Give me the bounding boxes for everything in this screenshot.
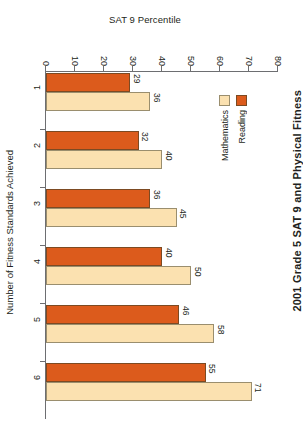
value-axis-tick-label: 40 (157, 56, 166, 66)
value-axis-tick-label: 60 (215, 56, 224, 66)
bar-group: 4658 (46, 305, 278, 343)
value-axis-tick-labels: 01020304050607080 (45, 40, 278, 66)
category-axis-label: 5 (32, 317, 42, 322)
value-axis-tick-label: 50 (186, 56, 195, 66)
bar-value-label: 40 (164, 248, 173, 257)
bar-value-label: 40 (164, 151, 173, 160)
bar-mathematics[interactable] (46, 382, 252, 401)
bar-mathematics[interactable] (46, 266, 191, 285)
bar-mathematics[interactable] (46, 150, 162, 169)
legend: MathematicsReading (219, 95, 275, 215)
bar-value-label: 36 (152, 93, 161, 102)
legend-entry[interactable]: Mathematics (219, 95, 230, 106)
bar-row: 50 (46, 266, 278, 285)
bar-mathematics[interactable] (46, 324, 214, 343)
legend-swatch-icon (219, 95, 230, 106)
category-axis-tick (40, 303, 45, 304)
bar-reading[interactable] (46, 189, 150, 208)
category-axis-title: Number of Fitness Standards Achieved (4, 150, 15, 315)
bar-value-label: 45 (179, 209, 188, 218)
category-axis-label: 3 (32, 201, 42, 206)
bar-mathematics[interactable] (46, 92, 150, 111)
legend-label: Mathematics (220, 110, 230, 161)
bar-mathematics[interactable] (46, 208, 177, 227)
value-axis-tick-label: 20 (99, 56, 108, 66)
bar-value-label: 29 (132, 74, 141, 83)
bar-row: 58 (46, 324, 278, 343)
bar-reading[interactable] (46, 131, 139, 150)
bar-value-label: 50 (193, 267, 202, 276)
bar-reading[interactable] (46, 305, 179, 324)
bar-value-label: 32 (141, 132, 150, 141)
chart-title: 2001 Grade 5 SAT 9 and Physical Fitness (291, 90, 303, 312)
value-axis-tick-label: 30 (128, 56, 137, 66)
category-axis-label: 1 (32, 85, 42, 90)
category-axis-label: 6 (32, 375, 42, 380)
category-axis-tick (40, 187, 45, 188)
bar-group: 4050 (46, 247, 278, 285)
category-axis-label: 2 (32, 143, 42, 148)
bar-value-label: 55 (208, 364, 217, 373)
chart-figure: SAT 9 Percentile 01020304050607080 12345… (0, 0, 307, 439)
bar-row: 40 (46, 247, 278, 266)
bar-reading[interactable] (46, 363, 206, 382)
category-axis-tick (40, 245, 45, 246)
legend-swatch-icon (236, 95, 247, 106)
bar-row: 55 (46, 363, 278, 382)
legend-entry[interactable]: Reading (236, 95, 247, 106)
category-axis-tick (40, 129, 45, 130)
value-axis-title: SAT 9 Percentile (60, 14, 230, 25)
value-axis-tick-label: 10 (70, 56, 79, 66)
value-axis-tick-label: 70 (244, 56, 253, 66)
bar-row: 71 (46, 382, 278, 401)
bar-value-label: 58 (216, 325, 225, 334)
category-axis-tick (40, 361, 45, 362)
bar-value-label: 71 (254, 383, 263, 392)
bar-reading[interactable] (46, 247, 162, 266)
bar-row: 29 (46, 73, 278, 92)
bar-group: 5571 (46, 363, 278, 401)
bar-value-label: 36 (152, 190, 161, 199)
category-axis-label: 4 (32, 259, 42, 264)
bar-reading[interactable] (46, 73, 130, 92)
value-axis-tick-label: 80 (273, 56, 282, 66)
legend-label: Reading (237, 110, 247, 144)
bar-row: 46 (46, 305, 278, 324)
bar-value-label: 46 (181, 306, 190, 315)
